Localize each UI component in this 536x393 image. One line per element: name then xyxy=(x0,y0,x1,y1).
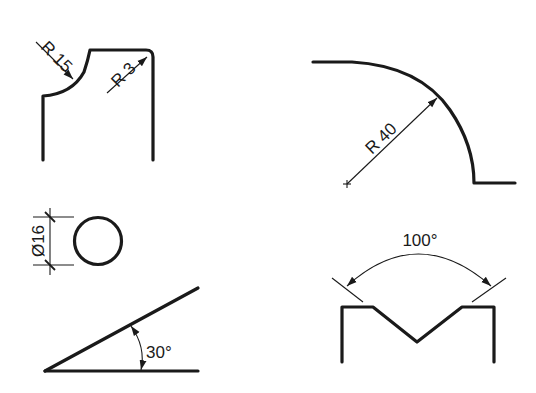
inclined-line xyxy=(45,288,198,371)
r15-label: R 15 xyxy=(37,37,76,76)
figure-circle: Ø16 xyxy=(29,208,122,275)
angle-100-label: 100° xyxy=(402,231,437,250)
figure-corner-radii: R 15 R 3 xyxy=(36,37,153,160)
angle-arc xyxy=(131,326,142,370)
r3-label: R 3 xyxy=(107,59,139,91)
technical-drawing: R 15 R 3 R 40 Ø16 30° 100° xyxy=(0,0,536,393)
ext-line-right xyxy=(472,278,506,302)
ext-line-left xyxy=(332,278,363,302)
angle-30-label: 30° xyxy=(146,343,172,362)
diameter-label: Ø16 xyxy=(29,225,48,257)
arc-outline xyxy=(313,62,515,183)
groove-outline xyxy=(342,307,494,362)
circle-outline xyxy=(75,218,122,265)
figure-large-arc: R 40 xyxy=(313,62,515,188)
angle-arc xyxy=(347,254,491,286)
figure-incline: 30° xyxy=(45,288,198,371)
figure-v-groove: 100° xyxy=(332,231,506,362)
